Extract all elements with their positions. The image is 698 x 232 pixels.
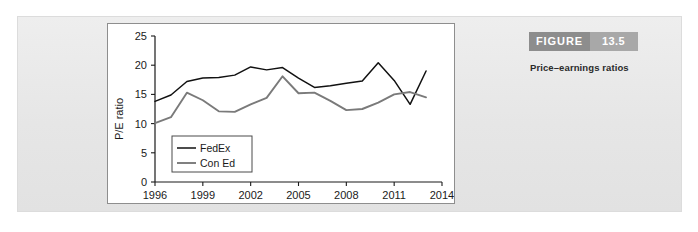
figure-caption: Price–earnings ratios bbox=[530, 61, 660, 74]
y-axis-ticks: 0510152025 bbox=[135, 30, 155, 188]
figure-badge-word: FIGURE bbox=[529, 32, 590, 51]
y-tick-label: 5 bbox=[141, 147, 147, 159]
x-tick-label: 1999 bbox=[191, 189, 215, 201]
x-tick-label: 2008 bbox=[334, 189, 358, 201]
chart-card: 0510152025 1996199920022005200820112014 … bbox=[107, 23, 455, 204]
y-tick-label: 15 bbox=[135, 88, 147, 100]
y-tick-label: 10 bbox=[135, 118, 147, 130]
x-tick-label: 2014 bbox=[430, 189, 454, 201]
y-tick-label: 25 bbox=[135, 30, 147, 42]
x-tick-label: 2002 bbox=[238, 189, 262, 201]
figure-label-block: FIGURE 13.5 Price–earnings ratios bbox=[529, 17, 681, 211]
series-line-con-ed bbox=[155, 76, 426, 123]
chart-legend: FedEx Con Ed bbox=[172, 136, 252, 172]
figure-badge: FIGURE 13.5 bbox=[529, 32, 638, 51]
y-tick-label: 0 bbox=[141, 176, 147, 188]
figure-badge-number: 13.5 bbox=[590, 32, 638, 51]
y-axis-title: P/E ratio bbox=[113, 98, 125, 140]
figure-page-panel: 0510152025 1996199920022005200820112014 … bbox=[18, 17, 681, 211]
y-tick-label: 20 bbox=[135, 59, 147, 71]
legend-label-fedex: FedEx bbox=[200, 142, 231, 154]
pe-ratio-line-chart: 0510152025 1996199920022005200820112014 … bbox=[108, 24, 454, 203]
x-tick-label: 2011 bbox=[382, 189, 406, 201]
legend-label-con-ed: Con Ed bbox=[200, 157, 235, 169]
chart-series-layer bbox=[155, 63, 426, 123]
x-tick-label: 1996 bbox=[143, 189, 167, 201]
x-tick-label: 2005 bbox=[286, 189, 310, 201]
x-axis-ticks: 1996199920022005200820112014 bbox=[143, 182, 454, 201]
